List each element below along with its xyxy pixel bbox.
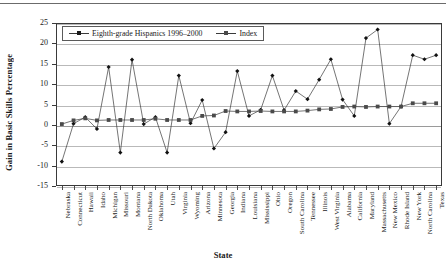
x-axis-tick <box>132 186 133 190</box>
x-axis-category-label: Arizona <box>205 192 212 215</box>
data-point-marker <box>434 101 438 105</box>
x-axis-tick <box>85 186 86 190</box>
data-point-marker <box>60 159 64 163</box>
y-axis-tick-label: 20 <box>22 39 48 47</box>
x-axis-tick <box>237 186 238 190</box>
x-axis-category-label: Michigan <box>112 192 119 219</box>
data-point-marker <box>142 122 146 126</box>
x-axis-tick <box>366 186 367 190</box>
data-point-marker <box>341 105 345 109</box>
y-axis-title: Gain in Basic Skills Percentage <box>2 36 16 188</box>
data-point-marker <box>294 110 298 114</box>
x-axis-tick <box>249 186 250 190</box>
x-axis-category-label: West Virginia <box>334 192 341 230</box>
x-axis-tick <box>413 186 414 190</box>
data-point-marker <box>83 116 87 120</box>
x-axis-tick <box>354 186 355 190</box>
x-axis-category-label: New Mexico <box>392 192 399 228</box>
data-point-marker <box>259 109 263 113</box>
data-point-marker <box>376 105 380 109</box>
data-point-marker <box>189 118 193 122</box>
x-axis-category-label: Oregon <box>287 192 294 213</box>
x-axis-category-label: Maryland <box>369 192 376 219</box>
data-point-marker <box>72 118 76 122</box>
y-axis-tick-label: 5 <box>22 101 48 109</box>
data-point-marker <box>177 73 181 77</box>
data-point-marker <box>247 114 251 118</box>
data-point-marker <box>95 118 99 122</box>
data-point-marker <box>305 97 309 101</box>
legend-item-2: Index <box>216 29 257 38</box>
data-point-marker <box>399 105 403 109</box>
data-point-marker <box>165 150 169 154</box>
data-point-marker <box>177 118 181 122</box>
x-axis-tick <box>261 186 262 190</box>
data-point-marker <box>352 105 356 109</box>
x-axis-category-label: Massachusetts <box>381 192 388 232</box>
data-point-marker <box>270 73 274 77</box>
data-point-marker <box>387 105 391 109</box>
data-point-marker <box>247 110 251 114</box>
y-axis-tick <box>52 186 56 187</box>
x-axis-category-label: Indiana <box>240 192 247 213</box>
x-axis-tick <box>226 186 227 190</box>
x-axis-category-label: New York <box>416 192 423 220</box>
x-axis-category-label: Alabama <box>346 192 353 217</box>
data-point-marker <box>411 53 415 57</box>
x-axis-category-label: Illinois <box>322 192 329 212</box>
data-point-marker <box>107 65 111 69</box>
x-axis-category-label: Virginia <box>182 192 189 215</box>
x-axis-tick <box>389 186 390 190</box>
y-axis-tick-label: 15 <box>22 60 48 68</box>
data-point-marker <box>235 69 239 73</box>
x-axis-tick <box>214 186 215 190</box>
data-point-marker <box>422 57 426 61</box>
x-axis-tick <box>343 186 344 190</box>
y-axis-tick-label: 0 <box>22 121 48 129</box>
series-line <box>62 30 436 162</box>
data-point-marker <box>270 110 274 114</box>
x-axis-tick <box>284 186 285 190</box>
x-axis-tick <box>436 186 437 190</box>
x-axis-category-label: South Carolina <box>299 192 306 234</box>
y-axis-tick-label: -10 <box>22 162 48 170</box>
x-axis-tick <box>144 186 145 190</box>
x-axis-category-label: Ohio <box>275 192 282 206</box>
x-axis-tick <box>272 186 273 190</box>
x-axis-tick <box>167 186 168 190</box>
square-marker-icon <box>216 33 236 34</box>
data-point-marker <box>235 110 239 114</box>
x-axis-category-label: Montana <box>135 192 142 217</box>
x-axis-category-label: Georgia <box>229 192 236 214</box>
data-point-marker <box>224 109 228 113</box>
data-point-marker <box>317 78 321 82</box>
data-point-marker <box>306 109 310 113</box>
legend-label: Index <box>239 29 257 38</box>
series-2 <box>60 101 438 126</box>
x-axis-category-label: North Carolina <box>427 192 434 234</box>
data-point-marker <box>130 58 134 62</box>
x-axis-category-label: Mississippi <box>264 192 271 224</box>
data-point-marker <box>294 89 298 93</box>
series-overlay <box>56 23 442 186</box>
data-point-marker <box>212 114 216 118</box>
data-point-marker <box>200 98 204 102</box>
x-axis-tick <box>120 186 121 190</box>
x-axis-tick <box>401 186 402 190</box>
data-point-marker <box>142 118 146 122</box>
x-axis-category-label: Missouri <box>123 192 130 217</box>
x-axis-tick <box>378 186 379 190</box>
y-axis-tick-label: 25 <box>22 19 48 27</box>
data-point-marker <box>60 122 64 126</box>
x-axis-tick <box>109 186 110 190</box>
x-axis-category-label: Tennessee <box>310 192 317 221</box>
x-axis-category-label: Rhode Island <box>404 192 411 229</box>
x-axis-category-label: Utah <box>170 192 177 206</box>
y-axis-tick-label: -15 <box>22 182 48 190</box>
x-axis-tick <box>424 186 425 190</box>
diamond-marker-icon <box>69 33 89 34</box>
x-axis-category-label: Idaho <box>100 192 107 208</box>
legend-label: Eighth-grade Hispanics 1996–2000 <box>92 29 202 38</box>
data-point-marker <box>107 118 111 122</box>
x-axis-category-label: Connecticut <box>77 192 84 226</box>
